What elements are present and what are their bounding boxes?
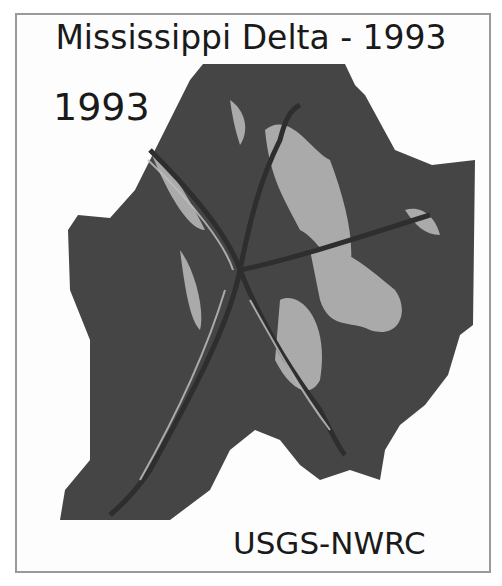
year-label: 1993 [53,85,150,129]
map-title: Mississippi Delta - 1993 [0,18,502,57]
source-credit: USGS-NWRC [233,525,426,561]
